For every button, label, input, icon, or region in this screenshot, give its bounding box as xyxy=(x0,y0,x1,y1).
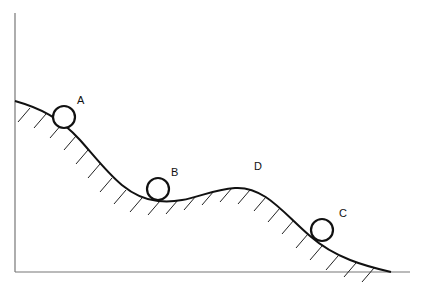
label-a: A xyxy=(77,94,85,106)
ball-c xyxy=(311,219,333,241)
ball-b xyxy=(147,178,169,200)
label-d: D xyxy=(254,160,262,172)
diagram-canvas: A B C D xyxy=(0,0,423,285)
ball-a xyxy=(53,106,75,128)
label-c: C xyxy=(339,207,347,219)
ground-hatching xyxy=(18,108,374,282)
label-b: B xyxy=(171,166,178,178)
surface-curve xyxy=(15,101,391,272)
